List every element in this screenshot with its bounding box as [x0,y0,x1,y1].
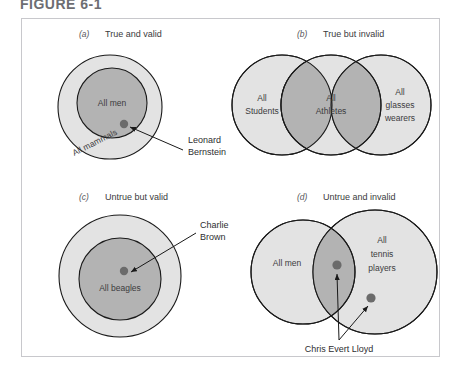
panel-a-callout-line1: Leonard [188,135,221,145]
panel-a-callout-line2: Bernstein [188,147,226,157]
panel-c-inner-circle [79,238,161,320]
panel-c-callout-line1: Charlie [200,220,229,230]
figure-root: FIGURE 6-1 (a) True and valid All men [0,0,460,380]
panel-d-label-tennis-line3: players [368,263,395,273]
panel-b-label-athletes-line2: Athletes [316,106,347,116]
panel-b-letter: (b) [297,29,308,39]
panel-d-caption: Untrue and invalid [323,192,396,202]
panel-a-point-leonard-bernstein [120,120,128,128]
panel-d-letter: (d) [297,192,308,202]
panel-b-label-glasses-line3: wearers [384,113,415,123]
panel-c-caption: Untrue but valid [105,192,168,202]
panel-d-label-all-men: All men [273,258,302,268]
panel-d-point-chris-evert-lloyd-intersection [332,260,341,269]
panel-b-label-glasses-line2: glasses [386,100,415,110]
panel-c-point-charlie-brown [120,267,128,275]
panel-b-label-glasses-line1: All [395,87,405,97]
venn-diagram-canvas: (a) True and valid All men All mammals L… [0,0,460,380]
panel-d-point-chris-evert-lloyd-outside [366,293,375,302]
panel-d-label-tennis-line1: All [377,235,387,245]
panel-b: (b) True but invalid All Students All At… [232,29,431,155]
panel-a-caption: True and valid [105,29,162,39]
panel-d: (d) Untrue and invalid All men All tenni… [251,192,437,354]
panel-c-callout-line2: Brown [200,232,226,242]
panel-c: (c) Untrue but valid All beagles Charlie… [59,192,229,337]
panel-a-letter: (a) [79,29,90,39]
panel-b-caption: True but invalid [323,29,384,39]
panel-a: (a) True and valid All men All mammals L… [58,29,226,159]
panel-c-inner-label: All beagles [99,283,141,293]
panel-a-inner-label: All men [98,98,127,108]
panel-b-label-students-line1: All [257,93,267,103]
panel-d-label-tennis-line2: tennis [371,249,394,259]
panel-b-label-athletes-line1: All [326,93,336,103]
panel-b-label-students-line2: Students [245,106,279,116]
panel-c-letter: (c) [79,192,89,202]
panel-d-callout-line1: Chris Evert Lloyd [305,344,374,354]
